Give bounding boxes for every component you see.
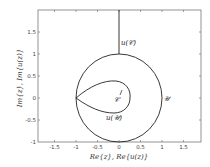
svg-text:0: 0 [33, 95, 37, 101]
x-axis-label: Re{z}, Re{u(z)} [89, 153, 148, 161]
y-tick-labels: 1.5 1 0.5 0 -0.5 -1 [25, 29, 36, 145]
svg-text:1: 1 [33, 51, 37, 57]
svg-text:1.5: 1.5 [27, 29, 36, 35]
chart: -1.5 -1 -0.5 0 0.5 1 1.5 1.5 1 0.5 0 -0.… [0, 0, 210, 167]
svg-text:0.5: 0.5 [136, 144, 145, 150]
svg-text:0.5: 0.5 [27, 73, 36, 79]
x-tick-labels: -1.5 -1 -0.5 0 0.5 1 1.5 [49, 144, 188, 150]
svg-text:-1.5: -1.5 [49, 144, 60, 150]
svg-text:-1: -1 [31, 139, 36, 145]
svg-text:1.5: 1.5 [179, 144, 188, 150]
svg-text:0: 0 [117, 144, 121, 150]
annotation-u-c: u(𝒞) [121, 39, 136, 47]
svg-text:-1: -1 [73, 144, 78, 150]
svg-text:1: 1 [160, 144, 164, 150]
svg-text:-0.5: -0.5 [92, 144, 103, 150]
annotation-u-u: u(𝒰) [106, 114, 122, 122]
y-axis-label: Im{z}, Im{u(z)} [16, 49, 24, 108]
plot-frame [38, 10, 201, 142]
svg-text:-0.5: -0.5 [25, 117, 36, 123]
